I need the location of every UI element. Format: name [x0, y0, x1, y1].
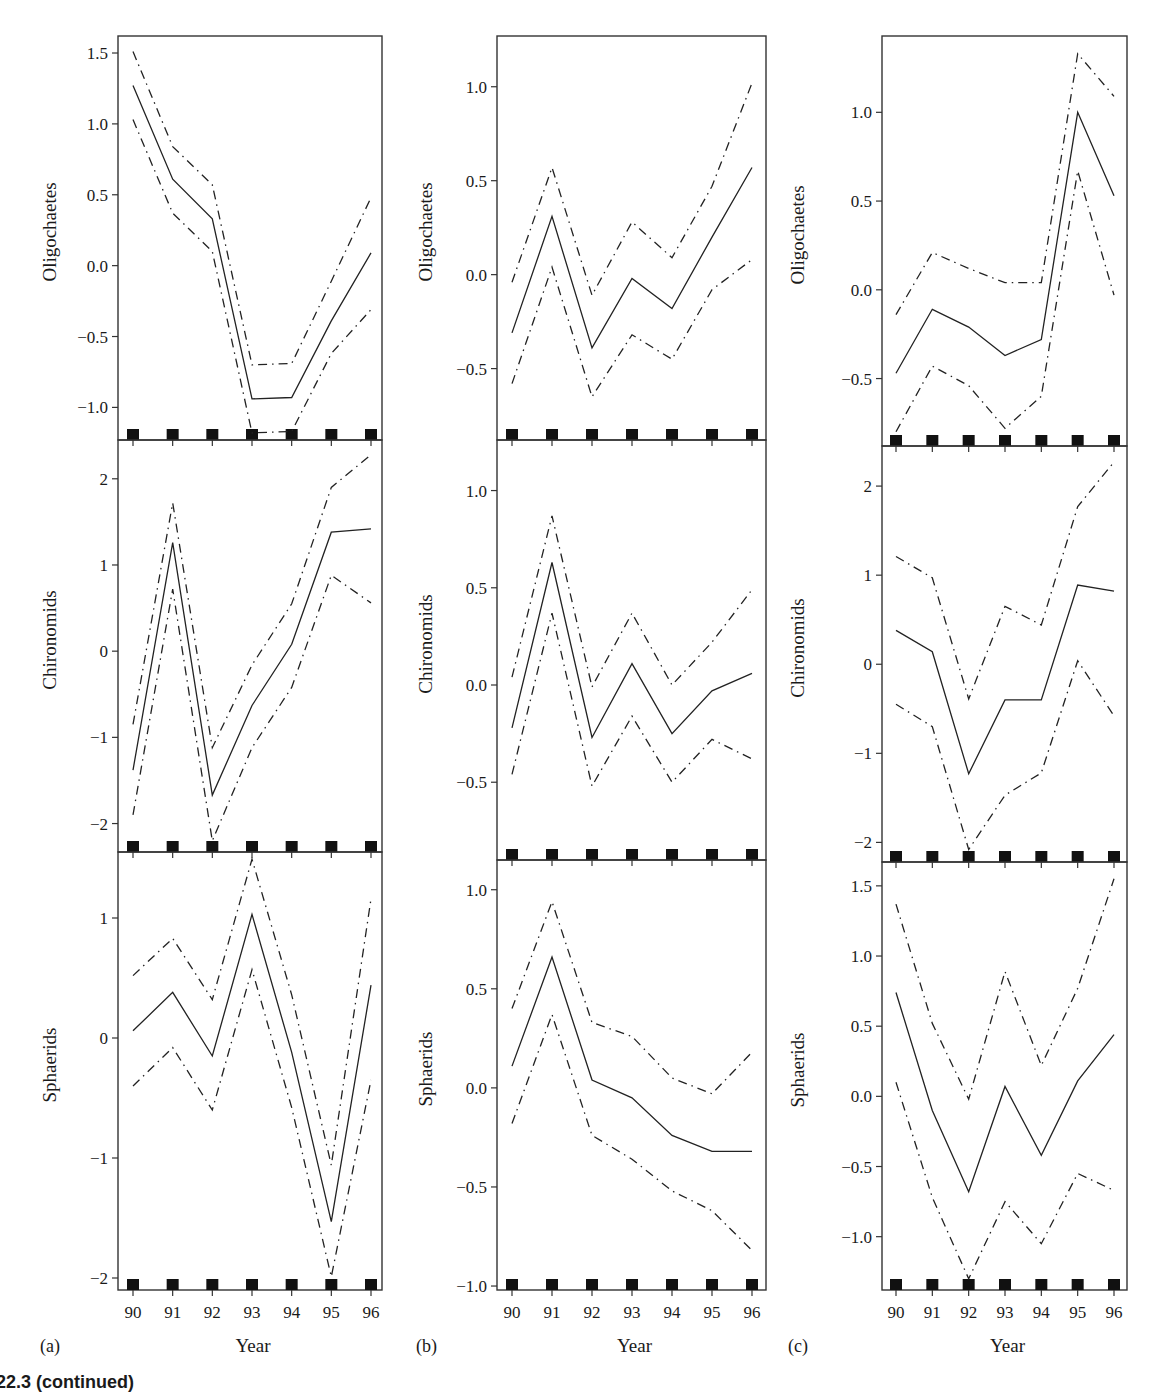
rug-marker — [325, 841, 337, 852]
y-axis-label: Sphaerids — [787, 1033, 808, 1108]
y-tick-label: 2 — [100, 470, 109, 489]
x-tick-label: 93 — [997, 1303, 1014, 1322]
lower-bound-line — [896, 171, 1114, 432]
estimate-line — [133, 86, 371, 399]
upper-bound-line — [512, 83, 752, 295]
plot-frame — [882, 446, 1127, 862]
y-axis-label: Oligochaetes — [415, 182, 436, 281]
figure-canvas: 1.51.00.50.0−0.5−1.0Oligochaetes1.00.50.… — [0, 0, 1165, 1395]
rug-marker — [365, 1279, 377, 1290]
y-tick-label: 0.5 — [466, 172, 487, 191]
rug-marker — [926, 435, 938, 446]
estimate-line — [896, 993, 1114, 1192]
rug-marker — [365, 841, 377, 852]
panel-c-sphaerids: 1.51.00.50.0−0.5−1.0Sphaerids90919293949… — [787, 862, 1127, 1357]
rug-marker — [506, 849, 518, 860]
estimate-line — [512, 563, 752, 738]
rug-marker — [1108, 851, 1120, 862]
y-tick-label: 1.0 — [851, 103, 872, 122]
x-tick-label: 91 — [164, 1303, 181, 1322]
x-tick-label: 96 — [363, 1303, 380, 1322]
lower-bound-line — [133, 575, 371, 841]
panel-tag-b: (b) — [416, 1336, 437, 1357]
rug-marker — [506, 429, 518, 440]
rug-marker — [963, 1279, 975, 1290]
y-tick-label: −1 — [854, 744, 872, 763]
y-axis-label: Chironomids — [787, 598, 808, 697]
rug-marker — [666, 849, 678, 860]
x-tick-label: 95 — [1069, 1303, 1086, 1322]
x-tick-label: 90 — [888, 1303, 905, 1322]
panel-a-oligochaetes: 1.51.00.50.0−0.5−1.0Oligochaetes — [39, 36, 382, 446]
y-axis-label: Oligochaetes — [39, 182, 60, 281]
rug-marker — [546, 849, 558, 860]
rug-marker — [546, 1279, 558, 1290]
rug-marker — [626, 1279, 638, 1290]
y-axis-label: Chironomids — [415, 594, 436, 693]
y-tick-label: 0.0 — [466, 1079, 487, 1098]
panel-tag-c: (c) — [788, 1336, 808, 1357]
plot-frame — [497, 860, 766, 1290]
rug-marker — [746, 849, 758, 860]
y-tick-label: 2 — [864, 477, 873, 496]
rug-marker — [1072, 851, 1084, 862]
y-tick-label: −0.5 — [456, 360, 487, 379]
x-tick-label: 91 — [924, 1303, 941, 1322]
y-tick-label: 0.5 — [466, 579, 487, 598]
rug-marker — [206, 1279, 218, 1290]
lower-bound-line — [512, 1015, 752, 1251]
estimate-line — [512, 168, 752, 348]
rug-marker — [706, 429, 718, 440]
rug-marker — [666, 429, 678, 440]
y-tick-label: −0.5 — [456, 773, 487, 792]
rug-marker — [206, 429, 218, 440]
upper-bound-line — [896, 54, 1114, 315]
upper-bound-line — [512, 516, 752, 687]
rug-marker — [1035, 435, 1047, 446]
y-tick-label: 1 — [100, 909, 109, 928]
estimate-line — [896, 585, 1114, 774]
rug-marker — [586, 1279, 598, 1290]
rug-marker — [167, 1279, 179, 1290]
rug-marker — [206, 841, 218, 852]
y-tick-label: −2 — [854, 833, 872, 852]
rug-marker — [325, 1279, 337, 1290]
figure-caption: 22.3 (continued) — [0, 1372, 134, 1393]
y-tick-label: 0 — [864, 655, 873, 674]
y-tick-label: 0.0 — [851, 281, 872, 300]
rug-marker — [926, 1279, 938, 1290]
y-tick-label: 0 — [100, 642, 109, 661]
y-axis-label: Chironomids — [39, 590, 60, 689]
x-tick-label: 96 — [744, 1303, 761, 1322]
x-tick-label: 93 — [624, 1303, 641, 1322]
rug-marker — [286, 841, 298, 852]
upper-bound-line — [133, 859, 371, 1165]
upper-bound-line — [896, 879, 1114, 1099]
rug-marker — [127, 429, 139, 440]
rug-marker — [286, 429, 298, 440]
rug-marker — [127, 1279, 139, 1290]
panel-c-oligochaetes: 1.00.50.0−0.5Oligochaetes — [787, 36, 1127, 452]
y-tick-label: 0.5 — [87, 186, 108, 205]
y-tick-label: −1 — [90, 728, 108, 747]
rug-marker — [666, 1279, 678, 1290]
rug-marker — [999, 851, 1011, 862]
rug-marker — [127, 841, 139, 852]
rug-marker — [325, 429, 337, 440]
rug-marker — [246, 429, 258, 440]
x-tick-label: 90 — [125, 1303, 142, 1322]
plot-frame — [497, 440, 766, 860]
rug-marker — [706, 849, 718, 860]
rug-marker — [506, 1279, 518, 1290]
rug-marker — [546, 429, 558, 440]
rug-marker — [1108, 1279, 1120, 1290]
estimate-line — [133, 529, 371, 795]
y-tick-label: −2 — [90, 1269, 108, 1288]
rug-marker — [286, 1279, 298, 1290]
rug-marker — [926, 851, 938, 862]
lower-bound-line — [512, 613, 752, 786]
y-tick-label: 0.0 — [466, 266, 487, 285]
y-tick-label: 1 — [864, 566, 873, 585]
rug-marker — [999, 1279, 1011, 1290]
x-tick-label: 91 — [544, 1303, 561, 1322]
